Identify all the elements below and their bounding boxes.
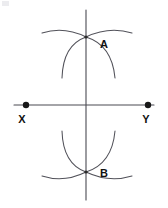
arc-upper-steep-left: [62, 37, 86, 78]
point-label-y: Y: [142, 113, 150, 125]
point-label-a: A: [100, 38, 108, 50]
arc-lower-steep-left: [62, 131, 86, 172]
arc-lower-steep-right: [86, 131, 115, 172]
point-b-dot: [84, 170, 87, 173]
point-a-dot: [84, 35, 87, 38]
arc-lower-shallow-left: [42, 172, 86, 179]
point-label-x: X: [18, 113, 26, 125]
point-y-dot: [145, 102, 151, 108]
arc-upper-shallow-left: [42, 30, 86, 37]
arc-lower-shallow-right: [86, 172, 132, 179]
point-x-dot: [23, 102, 29, 108]
construction-svg: A B X Y: [0, 0, 168, 208]
geometry-figure: A B X Y: [0, 0, 168, 208]
arc-upper-shallow-right: [86, 30, 132, 37]
point-label-b: B: [100, 167, 108, 179]
